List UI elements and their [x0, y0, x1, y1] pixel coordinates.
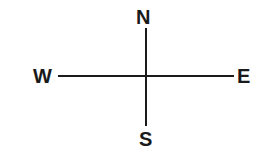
north-south-axis-line — [145, 28, 147, 126]
north-label: N — [136, 7, 150, 27]
west-east-axis-line — [58, 75, 234, 77]
east-label: E — [237, 66, 250, 86]
west-label: W — [33, 66, 52, 86]
compass-diagram: N S W E — [0, 0, 264, 159]
south-label: S — [139, 129, 152, 149]
